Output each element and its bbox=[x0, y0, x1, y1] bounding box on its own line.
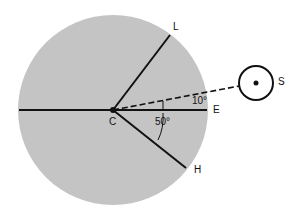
label-s: S bbox=[278, 77, 285, 87]
angle-label-10: 10° bbox=[192, 96, 207, 106]
angle-label-50: 50° bbox=[155, 117, 170, 127]
label-c: C bbox=[109, 117, 116, 127]
label-l: L bbox=[173, 22, 179, 32]
diagram-canvas bbox=[0, 0, 298, 215]
source-dot bbox=[254, 81, 259, 86]
center-point bbox=[110, 107, 116, 113]
label-e: E bbox=[213, 105, 220, 115]
label-h: H bbox=[194, 165, 201, 175]
